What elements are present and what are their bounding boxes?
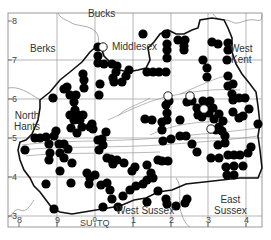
record-dot-filled bbox=[222, 170, 231, 179]
record-dot-filled bbox=[153, 186, 162, 195]
record-dot-filled bbox=[187, 139, 196, 148]
record-dot-filled bbox=[85, 173, 94, 182]
record-dot-filled bbox=[161, 100, 170, 109]
record-dot-filled bbox=[127, 166, 136, 175]
record-dot-filled bbox=[240, 93, 249, 102]
record-dot-filled bbox=[214, 153, 223, 162]
record-dot-filled bbox=[142, 160, 151, 169]
x-tick-4: 4 bbox=[244, 215, 249, 225]
record-dot-filled bbox=[63, 144, 72, 153]
record-dot-filled bbox=[107, 194, 116, 203]
record-dot-filled bbox=[161, 67, 170, 76]
record-dot-open bbox=[207, 125, 215, 133]
x-tick-8: 8 bbox=[17, 215, 22, 225]
record-dot-filled bbox=[238, 111, 247, 120]
region-label-north-hants: North Hants bbox=[14, 110, 40, 132]
record-dot-filled bbox=[158, 136, 167, 145]
x-tick-1: 1 bbox=[131, 215, 136, 225]
record-dot-filled bbox=[228, 79, 237, 88]
y-tick-8: 8 bbox=[12, 16, 17, 26]
record-dot-filled bbox=[99, 59, 108, 68]
record-dot-filled bbox=[202, 63, 211, 72]
record-dot-filled bbox=[131, 181, 140, 190]
record-dot-filled bbox=[157, 125, 166, 134]
record-dot-filled bbox=[162, 45, 171, 54]
grid-ref-tq: TQ bbox=[97, 218, 110, 228]
grid-ref-su: SU bbox=[80, 218, 93, 228]
x-tick-3: 3 bbox=[206, 215, 211, 225]
record-dot-filled bbox=[59, 153, 68, 162]
record-dot-filled bbox=[111, 67, 120, 76]
region-label-middlesex: Middlesex bbox=[112, 41, 157, 52]
record-dot-filled bbox=[179, 45, 188, 54]
record-dot-filled bbox=[182, 194, 191, 203]
record-dot-filled bbox=[118, 191, 127, 200]
record-dot-filled bbox=[94, 90, 103, 99]
record-dot-filled bbox=[79, 83, 88, 92]
record-dot-filled bbox=[69, 97, 78, 106]
record-dot-filled bbox=[213, 39, 222, 48]
record-dot-filled bbox=[95, 79, 104, 88]
record-dot-filled bbox=[162, 53, 171, 62]
y-tick-7: 7 bbox=[12, 55, 17, 65]
record-dot-filled bbox=[202, 72, 211, 81]
record-dot-filled bbox=[48, 93, 57, 102]
record-dot-filled bbox=[87, 119, 96, 128]
record-dot-filled bbox=[138, 29, 147, 38]
record-dot-filled bbox=[94, 145, 103, 154]
record-dot-filled bbox=[213, 140, 222, 149]
record-dot-filled bbox=[30, 133, 39, 142]
record-dot-filled bbox=[198, 55, 207, 64]
record-dot-filled bbox=[79, 75, 88, 84]
y-tick-5: 5 bbox=[12, 133, 17, 143]
record-dot-open bbox=[164, 92, 172, 100]
record-dot-filled bbox=[163, 156, 172, 165]
record-dot-filled bbox=[49, 204, 58, 213]
record-dot-filled bbox=[67, 158, 76, 167]
record-dot-filled bbox=[192, 147, 201, 156]
record-dot-filled bbox=[20, 145, 29, 154]
record-dot-open bbox=[99, 43, 107, 51]
record-dot-filled bbox=[98, 202, 107, 211]
record-dot-filled bbox=[55, 166, 64, 175]
record-dot-open bbox=[200, 105, 208, 113]
record-dot-filled bbox=[44, 139, 53, 148]
record-dot-filled bbox=[235, 150, 244, 159]
record-dot-filled bbox=[59, 84, 68, 93]
record-dot-filled bbox=[117, 77, 126, 86]
record-dot-filled bbox=[244, 104, 253, 113]
record-dot-filled bbox=[229, 161, 238, 170]
record-dot-filled bbox=[166, 134, 175, 143]
record-dot-filled bbox=[66, 178, 75, 187]
record-dot-filled bbox=[161, 29, 170, 38]
record-dot-filled bbox=[44, 155, 53, 164]
record-dot-filled bbox=[72, 128, 81, 137]
record-dot-filled bbox=[105, 185, 114, 194]
region-label-bucks: Bucks bbox=[88, 8, 115, 19]
region-label-west-sussex: West Sussex bbox=[116, 205, 174, 216]
region-label-west-kent: West Kent bbox=[230, 43, 253, 65]
x-tick-9: 9 bbox=[55, 215, 60, 225]
record-dot-filled bbox=[157, 117, 166, 126]
region-label-east-sussex: East Sussex bbox=[214, 194, 247, 216]
record-dot-filled bbox=[101, 127, 110, 136]
record-dot-filled bbox=[147, 115, 156, 124]
record-dot-filled bbox=[119, 158, 128, 167]
record-dot-filled bbox=[175, 115, 184, 124]
record-dot-filled bbox=[206, 153, 215, 162]
record-dot-filled bbox=[41, 179, 50, 188]
x-tick-2: 2 bbox=[169, 215, 174, 225]
y-tick-6: 6 bbox=[12, 94, 17, 104]
record-dot-open bbox=[186, 92, 194, 100]
record-dot-filled bbox=[181, 131, 190, 140]
record-dot-filled bbox=[238, 161, 247, 170]
record-dot-filled bbox=[146, 168, 155, 177]
region-label-berks: Berks bbox=[30, 43, 56, 54]
y-tick-4: 4 bbox=[12, 172, 17, 182]
record-dot-filled bbox=[253, 119, 262, 128]
grid-ref-label: SU0TQ bbox=[80, 215, 109, 228]
record-dot-filled bbox=[49, 131, 58, 140]
record-dot-filled bbox=[243, 148, 252, 157]
record-dot-filled bbox=[223, 71, 232, 80]
record-dot-filled bbox=[221, 162, 230, 171]
